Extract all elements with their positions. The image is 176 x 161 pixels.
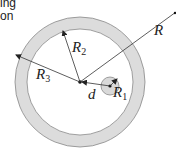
label-d: d (88, 86, 96, 102)
concentric-ring-diagram: R R2 R3 d R1 (0, 0, 176, 161)
label-R: R (153, 22, 163, 38)
